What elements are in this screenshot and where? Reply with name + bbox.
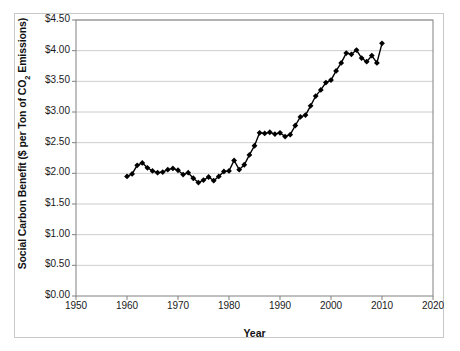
y-tick-label: $2.50 [18, 136, 70, 147]
y-tick-label: $4.00 [18, 44, 70, 55]
data-point-marker [308, 103, 314, 109]
data-point-marker [226, 168, 232, 174]
data-point-marker [247, 152, 253, 158]
x-tick-label: 2020 [403, 300, 460, 311]
data-point-marker [124, 174, 130, 180]
data-point-marker [134, 162, 140, 168]
data-point-marker [257, 130, 263, 136]
y-tick-label: $4.50 [18, 13, 70, 24]
y-tick-label: $3.00 [18, 105, 70, 116]
y-tick-label: $1.50 [18, 197, 70, 208]
data-point-marker [303, 112, 309, 118]
data-point-marker [328, 77, 334, 83]
data-point-marker [231, 158, 237, 164]
data-point-marker [292, 123, 298, 129]
data-point-marker [252, 143, 258, 149]
plot-frame [76, 20, 433, 296]
y-tick-label: $0.00 [18, 289, 70, 300]
data-point-marker [160, 169, 166, 175]
data-point-marker [155, 170, 161, 176]
data-point-marker [343, 50, 349, 56]
data-point-marker [165, 167, 171, 173]
data-point-marker [267, 129, 273, 135]
y-tick-label: $0.50 [18, 258, 70, 269]
data-point-marker [272, 131, 278, 137]
data-point-marker [262, 131, 268, 137]
data-point-marker [298, 114, 304, 120]
chart-container: Social Carbon Benefit ($ per Ton of CO2 … [0, 0, 460, 351]
data-point-marker [129, 171, 135, 177]
data-point-marker [379, 40, 385, 46]
y-tick-label: $3.50 [18, 74, 70, 85]
y-tick-label: $1.00 [18, 228, 70, 239]
y-tick-label: $2.00 [18, 166, 70, 177]
data-point-marker [287, 132, 293, 138]
data-point-marker [170, 166, 176, 172]
data-series-line [127, 43, 382, 182]
